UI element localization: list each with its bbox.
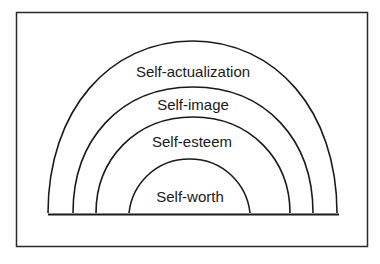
- diagram-frame: [17, 13, 368, 247]
- label-self-esteem: Self-esteem: [152, 133, 232, 150]
- self-concept-diagram: Self-actualization Self-image Self-estee…: [0, 0, 380, 264]
- label-self-actualization: Self-actualization: [136, 63, 250, 80]
- label-self-worth: Self-worth: [156, 188, 224, 205]
- label-self-image: Self-image: [157, 96, 229, 113]
